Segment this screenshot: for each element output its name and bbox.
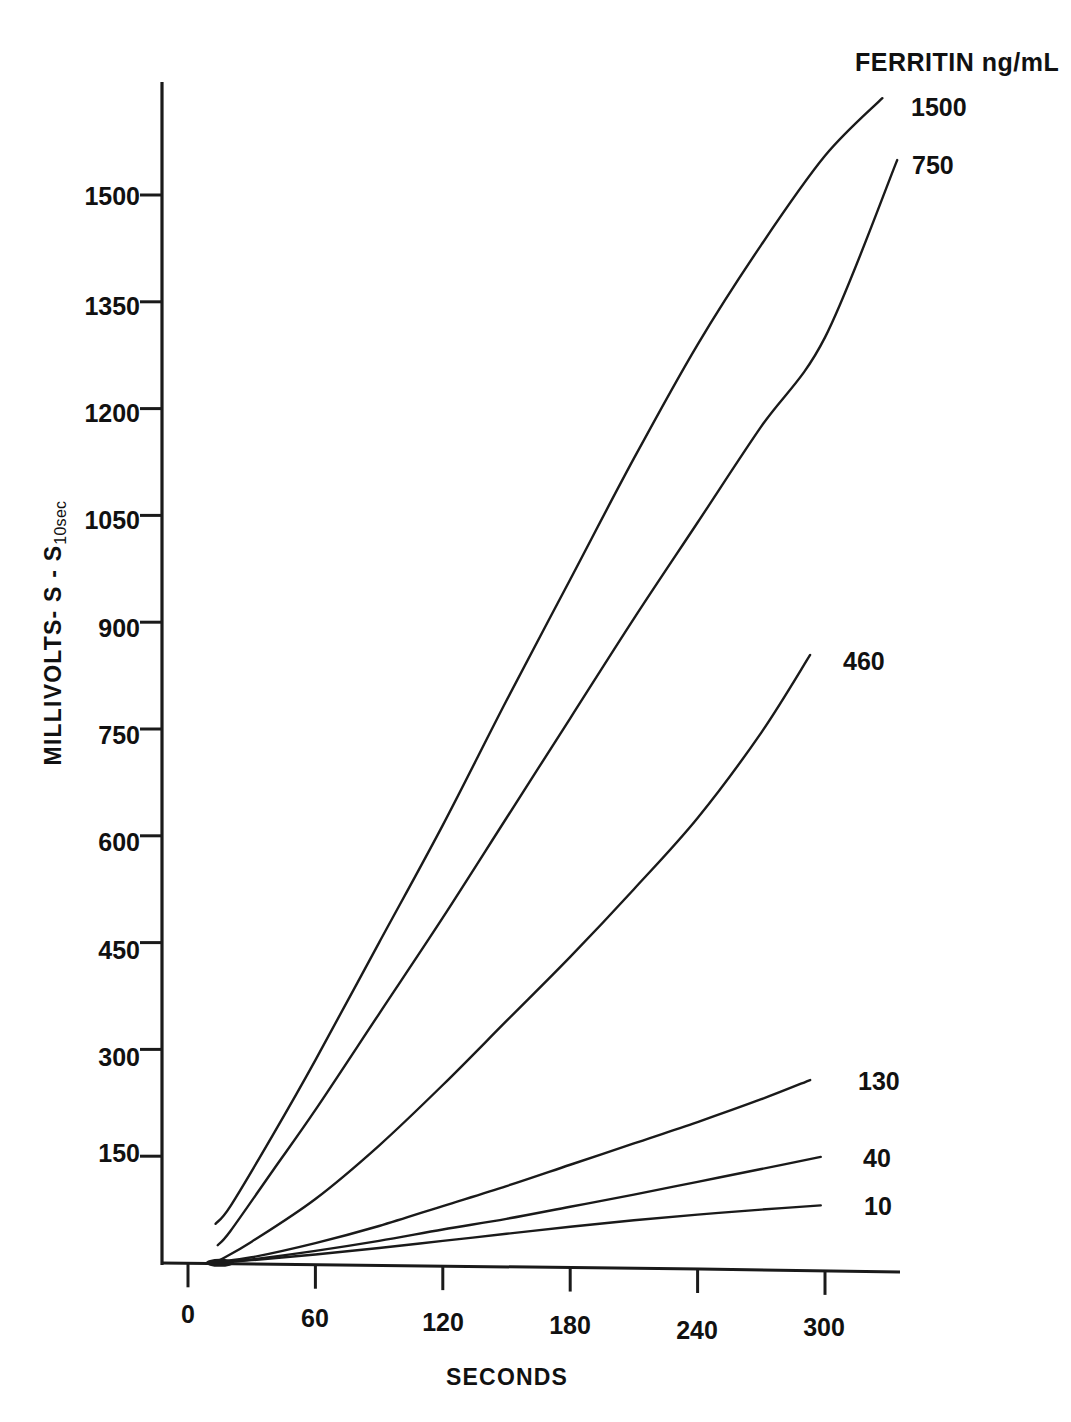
series-curve-10 bbox=[220, 1205, 821, 1262]
series-label-460: 460 bbox=[843, 647, 885, 676]
series-curve-1500 bbox=[216, 98, 883, 1224]
y-axis-title-main: MILLIVOLTS- S - S bbox=[40, 545, 67, 766]
series-curve-460 bbox=[220, 655, 810, 1260]
ytick-label-150: 150 bbox=[40, 1139, 140, 1168]
legend-title: FERRITIN ng/mL bbox=[855, 48, 1059, 77]
series-layer bbox=[206, 98, 897, 1267]
x-axis-line bbox=[161, 1263, 900, 1272]
xtick-label-300: 300 bbox=[790, 1313, 858, 1342]
series-label-130: 130 bbox=[858, 1067, 900, 1096]
xtick-label-180: 180 bbox=[536, 1311, 604, 1340]
ytick-label-1500: 1500 bbox=[40, 182, 140, 211]
xtick-label-120: 120 bbox=[409, 1308, 477, 1337]
series-curve-40 bbox=[220, 1157, 821, 1262]
ytick-label-450: 450 bbox=[40, 936, 140, 965]
xtick-label-0: 0 bbox=[158, 1300, 218, 1329]
series-curve-130 bbox=[220, 1080, 810, 1262]
axes-layer bbox=[140, 82, 900, 1295]
series-label-750: 750 bbox=[912, 151, 954, 180]
ytick-label-300: 300 bbox=[40, 1043, 140, 1072]
series-curve-750 bbox=[218, 160, 897, 1245]
y-axis-title: MILLIVOLTS- S - S10sec bbox=[40, 423, 80, 843]
series-label-40: 40 bbox=[863, 1144, 891, 1173]
xtick-label-60: 60 bbox=[283, 1304, 347, 1333]
chart-plot-area bbox=[0, 0, 1071, 1422]
series-label-10: 10 bbox=[864, 1192, 892, 1221]
series-label-1500: 1500 bbox=[911, 93, 967, 122]
origin-convergence-mark bbox=[206, 1259, 234, 1267]
y-axis-title-subscript: 10sec bbox=[52, 501, 69, 545]
ytick-label-1350: 1350 bbox=[40, 292, 140, 321]
x-axis-title: SECONDS bbox=[446, 1364, 568, 1391]
xtick-label-240: 240 bbox=[663, 1316, 731, 1345]
chart-container: 1500 1350 1200 1050 900 750 600 450 300 … bbox=[0, 0, 1071, 1422]
